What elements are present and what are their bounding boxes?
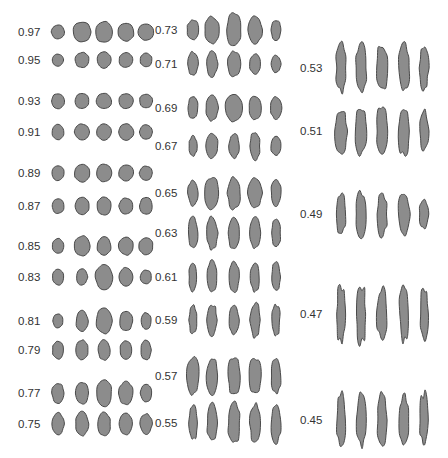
- particle-shape: [97, 380, 112, 407]
- particle-shape: [249, 403, 260, 443]
- particle-shape: [98, 340, 110, 361]
- particle-shape: [52, 238, 63, 253]
- roundness-label: 0.83: [18, 270, 40, 284]
- roundness-label: 0.51: [300, 124, 322, 138]
- particle-shape: [271, 55, 281, 73]
- particle-shape: [119, 94, 133, 109]
- particle-shapes-canvas: [0, 0, 448, 458]
- particle-shape: [229, 261, 239, 292]
- particle-shape: [229, 134, 240, 159]
- particle-shape: [228, 401, 240, 442]
- particle-shape: [119, 124, 134, 141]
- shape-row: [52, 164, 152, 182]
- particle-shape: [207, 260, 217, 292]
- particle-shape: [139, 166, 152, 180]
- roundness-label: 0.79: [18, 343, 40, 357]
- particle-shape: [140, 414, 153, 435]
- roundness-label: 0.65: [155, 186, 177, 200]
- particle-shape: [419, 199, 428, 229]
- shape-row: [188, 177, 282, 210]
- particle-shape: [337, 391, 346, 447]
- particle-shape: [119, 413, 132, 435]
- particle-shape: [187, 20, 198, 40]
- particle-shape: [225, 94, 242, 121]
- shape-row: [337, 390, 429, 449]
- particle-shape: [250, 302, 261, 338]
- particle-shape: [271, 180, 281, 207]
- shape-row: [53, 308, 151, 334]
- particle-shape: [188, 97, 198, 119]
- roundness-label: 0.59: [155, 313, 177, 327]
- particle-shape: [377, 107, 388, 154]
- particle-shape: [189, 135, 197, 156]
- particle-shape: [75, 197, 89, 215]
- shape-row: [187, 13, 281, 46]
- particle-shape: [96, 21, 113, 42]
- shape-row: [189, 401, 281, 444]
- particle-shape: [76, 310, 88, 331]
- particle-shape: [119, 165, 134, 181]
- shape-row: [189, 133, 281, 161]
- particle-shape: [229, 305, 239, 334]
- particle-shape: [141, 313, 151, 330]
- particle-shape: [119, 198, 133, 214]
- particle-shape: [207, 402, 217, 439]
- particle-shape: [76, 340, 88, 360]
- particle-shape: [399, 393, 409, 445]
- particle-shape: [97, 52, 111, 69]
- particle-shape: [227, 13, 241, 46]
- particle-shape: [377, 391, 387, 446]
- particle-shape: [52, 166, 64, 181]
- particle-shape: [249, 359, 261, 393]
- shape-row: [336, 41, 429, 94]
- shape-row: [53, 265, 152, 290]
- particle-shape: [53, 341, 64, 359]
- particle-shape: [53, 269, 64, 285]
- particle-shape: [96, 93, 111, 108]
- particle-shape: [205, 16, 219, 44]
- particle-shape: [118, 237, 133, 255]
- particle-shape: [228, 51, 241, 77]
- particle-shape: [336, 41, 346, 94]
- particle-shape: [76, 411, 89, 436]
- particle-shape: [205, 177, 219, 209]
- particle-shape: [189, 405, 198, 440]
- shape-row: [52, 411, 153, 436]
- roundness-label: 0.63: [155, 226, 177, 240]
- roundness-label: 0.77: [18, 386, 40, 400]
- roundness-label: 0.87: [18, 199, 40, 213]
- particle-shape: [357, 287, 366, 346]
- particle-shape: [250, 54, 261, 75]
- particle-shape: [119, 381, 133, 405]
- roundness-label: 0.95: [18, 53, 40, 67]
- particle-shape: [120, 341, 132, 359]
- shape-row: [52, 52, 152, 69]
- particle-shape: [206, 95, 219, 121]
- shape-row: [189, 260, 281, 293]
- particle-shape: [75, 383, 88, 405]
- particle-shape: [97, 197, 111, 215]
- shape-row: [188, 51, 281, 78]
- particle-shape: [75, 164, 90, 182]
- particle-shape: [271, 97, 282, 120]
- particle-shape: [139, 125, 152, 139]
- roundness-label: 0.73: [155, 23, 177, 37]
- particle-shape: [248, 16, 263, 44]
- particle-shape: [97, 237, 111, 256]
- particle-shape: [52, 124, 64, 140]
- particle-shape: [140, 270, 151, 284]
- roundness-label: 0.49: [300, 207, 322, 221]
- particle-shape: [377, 193, 387, 238]
- roundness-label: 0.53: [300, 61, 322, 75]
- particle-shape: [271, 405, 281, 445]
- roundness-label: 0.91: [18, 125, 40, 139]
- particle-shape: [141, 340, 151, 360]
- roundness-label: 0.97: [18, 25, 40, 39]
- particle-shape: [75, 52, 89, 67]
- particle-shape: [227, 177, 240, 210]
- particle-shape: [52, 412, 65, 435]
- shape-row: [186, 356, 280, 395]
- particle-shape: [247, 178, 262, 208]
- particle-shape: [52, 54, 63, 66]
- particle-shape: [356, 190, 366, 238]
